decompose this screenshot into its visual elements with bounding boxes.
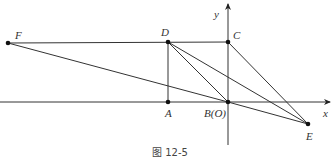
label-b: B(O) (204, 107, 226, 120)
point-c (226, 40, 231, 45)
point-a (166, 100, 171, 105)
label-e: E (305, 130, 313, 142)
point-b (226, 100, 231, 105)
point-f (6, 41, 11, 46)
label-d: D (160, 26, 169, 38)
segment-be (228, 102, 308, 124)
segment-fb (8, 43, 228, 102)
figure-caption: 图 12-5 (152, 147, 188, 158)
label-f: F (14, 29, 22, 41)
label-c: C (233, 29, 241, 41)
label-x-axis: x (322, 107, 328, 119)
segment-ce (228, 42, 308, 124)
label-a: A (164, 107, 172, 119)
label-y-axis: y (213, 8, 219, 20)
point-e (306, 122, 311, 127)
geometry-figure: F D C A B(O) E y x 图 12-5 (0, 0, 336, 158)
segment-fc (8, 42, 228, 43)
segment-de (168, 42, 308, 124)
point-d (166, 40, 171, 45)
